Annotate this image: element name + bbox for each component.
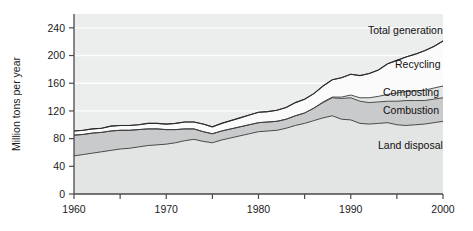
chart-figure: 0408012016020024019601970198019902000Mil… — [0, 0, 473, 231]
x-tick-label-1980: 1980 — [247, 203, 271, 215]
x-tick-label-2000: 2000 — [431, 203, 455, 215]
y-tick-label-120: 120 — [47, 105, 65, 117]
y-tick-label-80: 80 — [53, 132, 65, 144]
series-label-composting: Composting — [383, 86, 439, 98]
series-label-land-disposal: Land disposal — [378, 139, 443, 151]
y-tick-label-200: 200 — [47, 49, 65, 61]
y-tick-label-160: 160 — [47, 77, 65, 89]
x-tick-label-1990: 1990 — [339, 203, 363, 215]
y-tick-label-240: 240 — [47, 22, 65, 34]
series-label-total-generation: Total generation — [368, 24, 443, 36]
y-axis-title: Million tons per year — [10, 57, 22, 151]
y-tick-label-40: 40 — [53, 160, 65, 172]
x-tick-label-1970: 1970 — [155, 203, 179, 215]
series-label-recycling: Recycling — [395, 58, 441, 70]
x-tick-label-1960: 1960 — [62, 203, 86, 215]
series-label-combustion: Combustion — [383, 104, 439, 116]
y-tick-label-0: 0 — [59, 188, 65, 200]
chart-svg: 0408012016020024019601970198019902000Mil… — [0, 0, 473, 231]
